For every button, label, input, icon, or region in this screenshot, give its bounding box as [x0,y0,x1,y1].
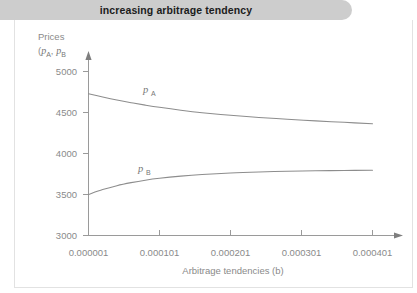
y-tick-label-3000: 3000 [56,230,77,241]
x-tick-label-4: 0.000301 [282,247,322,258]
curve-label-pa-subscript: A [151,90,156,97]
x-tick-label-5: 0.000401 [353,247,393,258]
x-tick-label-1: 0.000001 [69,247,109,258]
chart-figure: increasing arbitrage tendency Prices (pA… [0,0,417,293]
y-tick-label-5000: 5000 [56,66,77,77]
curve-label-pb: p [137,163,143,174]
curve-label-pa-group: p A [142,84,156,97]
svg-text:p B: p B [137,163,151,176]
svg-text:p A: p A [142,84,156,97]
y-axis-label-line1: Prices [38,31,65,42]
x-axis-arrow-icon [394,232,403,238]
x-axis-title: Arbitrage tendencies (b) [182,265,283,276]
y-axis-arrow-icon [85,51,91,60]
curve-label-pa: p [142,84,148,95]
chart-title-bar: increasing arbitrage tendency [0,0,352,20]
svg-text:(pA, pB: (pA, pB [38,45,66,58]
y-tick-label-4500: 4500 [56,107,77,118]
x-tick-label-2: 0.000101 [140,247,180,258]
y-axis-label-pb-sub: B [61,51,66,58]
y-axis-label-line2: (pA, pB [38,45,66,58]
x-tick-label-3: 0.000201 [211,247,251,258]
curve-pa [89,94,373,124]
curve-label-pb-subscript: B [146,169,151,176]
y-tick-label-3500: 3500 [56,189,77,200]
chart-title: increasing arbitrage tendency [0,0,352,20]
plot-canvas: Prices (pA, pB 5000 4500 4000 3500 3000 [0,18,417,293]
curve-label-pb-group: p B [137,163,151,176]
y-tick-label-4000: 4000 [56,148,77,159]
curve-pb [89,170,373,194]
